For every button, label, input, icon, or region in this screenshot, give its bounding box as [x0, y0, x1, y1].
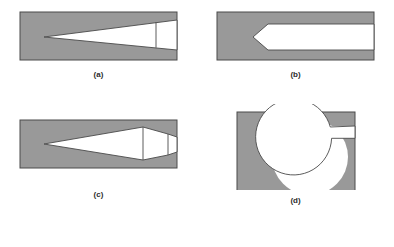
panel-a-diagram [0, 8, 197, 68]
panel-b-label: (b) [197, 70, 394, 80]
figure-container: (a) (b) (c) [0, 0, 394, 247]
panel-d: (d) [197, 104, 394, 210]
panel-a: (a) [0, 8, 197, 90]
panel-c-label: (c) [0, 190, 197, 200]
panel-d-label: (d) [197, 196, 394, 206]
panel-c: (c) [0, 108, 197, 210]
chevron-cavity [253, 24, 374, 50]
panel-d-diagram [197, 104, 394, 190]
panel-a-label: (a) [0, 70, 197, 80]
panel-b-diagram [197, 8, 394, 68]
panel-b: (b) [197, 8, 394, 90]
panel-c-diagram [0, 108, 197, 184]
